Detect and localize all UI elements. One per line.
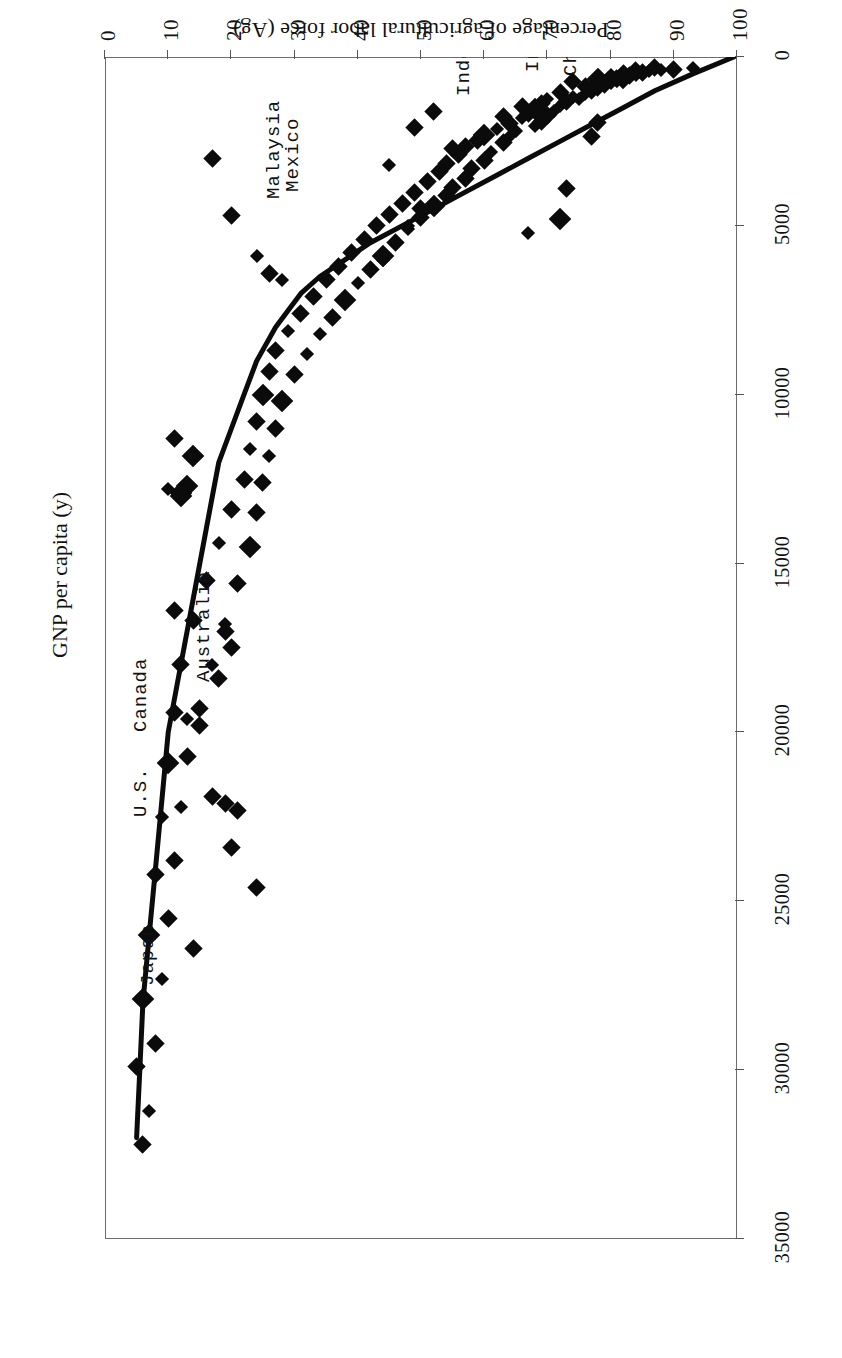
- gnp-tick-label: 10000: [771, 366, 794, 419]
- gnp-tick-label: 30000: [771, 1042, 794, 1095]
- x-axis-title: GNP per capita (y): [47, 492, 73, 658]
- annotation-mexico: Mexico: [282, 118, 304, 192]
- scanned-figure-page: 05000100001500020000250003000035000 0102…: [0, 0, 842, 1358]
- gnp-tick-label: 25000: [771, 873, 794, 926]
- annotation-malaysia: Malaysia: [263, 100, 285, 199]
- gnp-tick-label: 5000: [771, 203, 794, 245]
- plot-area: ChinaIndiaIndonesiaMexicoMalaysiaAustral…: [105, 57, 737, 1239]
- scatter-chart: 05000100001500020000250003000035000 0102…: [105, 57, 737, 1239]
- y-axis-title: Percentage of agricultural labor force (…: [105, 17, 737, 43]
- annotation-australia: Australia: [193, 570, 215, 682]
- gnp-tick-label: 20000: [771, 704, 794, 757]
- annotation-china: China: [560, 57, 582, 76]
- annotation-us: U.S.: [130, 767, 152, 817]
- gnp-tick-label: 35000: [771, 1211, 794, 1264]
- annotation-japan: Japan: [137, 924, 159, 986]
- gnp-tick-label: 15000: [771, 535, 794, 588]
- annotation-canada: Canada: [130, 658, 152, 732]
- annotation-indonesia: Indonesia: [453, 57, 475, 96]
- annotation-india: India: [522, 57, 544, 72]
- gnp-tick-label: 0: [771, 50, 794, 61]
